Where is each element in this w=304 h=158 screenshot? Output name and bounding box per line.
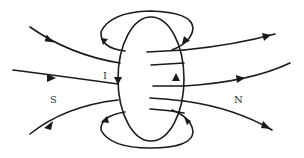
north-pole-label: N: [234, 94, 243, 105]
arrow-right-top-icon: [262, 33, 271, 41]
field-line-left-bottom: [30, 100, 118, 134]
south-pole-label: S: [50, 94, 57, 105]
field-line-inner-1: [147, 50, 184, 52]
field-line-right-top: [184, 34, 275, 50]
field-line-inner-2: [151, 63, 184, 65]
arrow-right-bottom-icon: [261, 121, 271, 129]
magnetic-field-diagram: I S N: [0, 0, 304, 158]
field-line-inner-4: [150, 98, 184, 101]
field-line-right-bottom: [184, 101, 272, 130]
current-arrow-up-icon: [172, 73, 180, 81]
current-label: I: [103, 70, 107, 81]
field-loop-bottom: [101, 110, 193, 148]
